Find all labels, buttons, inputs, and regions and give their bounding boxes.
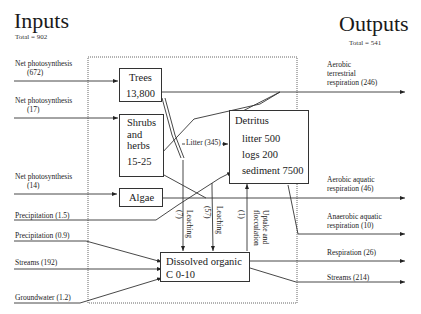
pool-trees: Trees 13,800 [119, 68, 162, 102]
leaching-7-value: (7) [175, 210, 184, 219]
uptake-value: (1) [237, 210, 246, 219]
output-label-aerobic-terrestrial: Aerobic terrestrial respiration (246) [327, 60, 377, 87]
input-label-net-photosynthesis-algae: Net photosynthesis (14) [15, 172, 72, 190]
leaching-7-label: Leaching [185, 210, 194, 238]
leaching-57-label: Leaching [215, 206, 224, 234]
output-label-streams: Streams (214) [327, 273, 369, 282]
pool-algae: Algae [119, 188, 163, 207]
pool-trees-value: 13,800 [126, 87, 155, 100]
leaching-57-value: (57) [203, 206, 212, 219]
pool-detritus: Detritus litter 500 logs 200 sediment 75… [229, 110, 309, 184]
outputs-title: Outputs [339, 13, 409, 35]
outputs-total: Total = 541 [349, 39, 381, 47]
litter-flow-label: Litter (345) [185, 138, 222, 147]
pool-detritus-name: Detritus [235, 114, 269, 127]
input-label-precipitation-doc: Precipitation (0.9) [15, 231, 70, 240]
output-label-respiration: Respiration (26) [327, 248, 376, 257]
input-label-net-photosynthesis-trees: Net photosynthesis (672) [15, 59, 72, 77]
input-label-groundwater: Groundwater (1.2) [15, 293, 71, 302]
inputs-title: Inputs [14, 10, 69, 32]
input-label-net-photosynthesis-shrubs: Net photosynthesis (17) [15, 96, 72, 114]
input-label-streams: Streams (192) [15, 258, 57, 267]
output-label-aerobic-aquatic: Aerobic aquatic respiration (46) [327, 175, 375, 193]
input-label-precipitation-detritus: Precipitation (1.5) [15, 211, 70, 220]
uptake-label: Uptake and [261, 210, 270, 244]
pool-shrubs-herbs: Shrubs and herbs 15-25 [119, 114, 164, 177]
inputs-total: Total = 902 [15, 33, 47, 41]
pool-trees-name: Trees [129, 71, 152, 84]
pool-dissolved-organic-carbon: Dissolved organic C 0-10 [160, 252, 250, 282]
flocculation-label: flocculation [252, 210, 261, 246]
output-label-anaerobic-aquatic: Anaerobic aquatic respiration (10) [327, 212, 382, 230]
